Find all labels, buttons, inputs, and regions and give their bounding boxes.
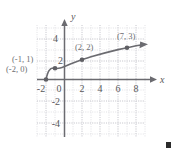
x-tick-label: 4 [98, 83, 103, 94]
point-marker [44, 77, 49, 82]
point-marker [53, 66, 58, 71]
coordinate-plane: y x -2 0 2 4 6 8 4 2 -2 -4 (-2, 0) (-1, … [0, 0, 173, 151]
x-tick-label: -2 [37, 83, 45, 94]
y-tick-label: 2 [58, 55, 63, 66]
x-axis-label: x [159, 74, 165, 85]
point-marker [125, 46, 130, 51]
point-label-2-2: (2, 2) [75, 42, 94, 52]
x-tick-label: 0 [57, 83, 62, 94]
x-axis-arrow [150, 76, 157, 82]
point-label-7-3: (7, 3) [117, 31, 136, 41]
y-axis-arrow [61, 19, 67, 26]
x-tick-label: 8 [134, 83, 139, 94]
x-tick-label: 6 [116, 83, 121, 94]
y-axis-label: y [70, 11, 76, 22]
corner-mark [166, 142, 171, 148]
x-tick-label: 2 [80, 83, 85, 94]
curve-end-arrow [140, 42, 149, 49]
point-label-minus1-1: (-1, 1) [12, 54, 33, 64]
point-marker [80, 58, 85, 63]
y-tick-label: 4 [53, 33, 58, 44]
y-tick-label: -2 [52, 96, 60, 107]
y-tick-label: -4 [52, 118, 60, 129]
point-label-minus2-0: (-2, 0) [6, 64, 27, 74]
graph-figure: y x -2 0 2 4 6 8 4 2 -2 -4 (-2, 0) (-1, … [0, 0, 173, 151]
